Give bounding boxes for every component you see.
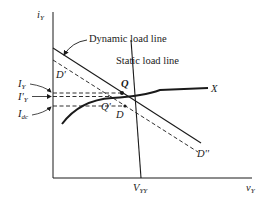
curve-end-label-x: X xyxy=(210,83,218,94)
point-d-prime-label: D' xyxy=(55,69,67,80)
load-line-diagram: iY vY Dynamic load line Static load line… xyxy=(0,0,267,202)
point-q-prime-label: Q' xyxy=(101,101,112,112)
point-d-double-prime-label: D'' xyxy=(196,148,210,159)
x-axis-label: vY xyxy=(246,182,256,195)
dynamic-load-line-label: Dynamic load line xyxy=(89,33,167,44)
dynamic-callout-arrow xyxy=(64,40,87,55)
static-load-line-label: Static load line xyxy=(116,55,179,66)
i-y-prime-label: I'Y xyxy=(17,91,29,104)
point-d-marker xyxy=(123,104,126,107)
point-q-marker xyxy=(120,91,124,95)
y-axis-label: iY xyxy=(37,9,45,22)
point-q-label: Q xyxy=(121,78,129,89)
i-dc-label: Idc xyxy=(17,108,29,121)
v-yy-label: VYY xyxy=(133,182,148,195)
i-dc-callout-arrow xyxy=(32,107,51,115)
i-y-label: IY xyxy=(17,78,27,91)
point-d-label: D xyxy=(115,109,124,120)
i-y-callout-arrow xyxy=(30,84,51,92)
